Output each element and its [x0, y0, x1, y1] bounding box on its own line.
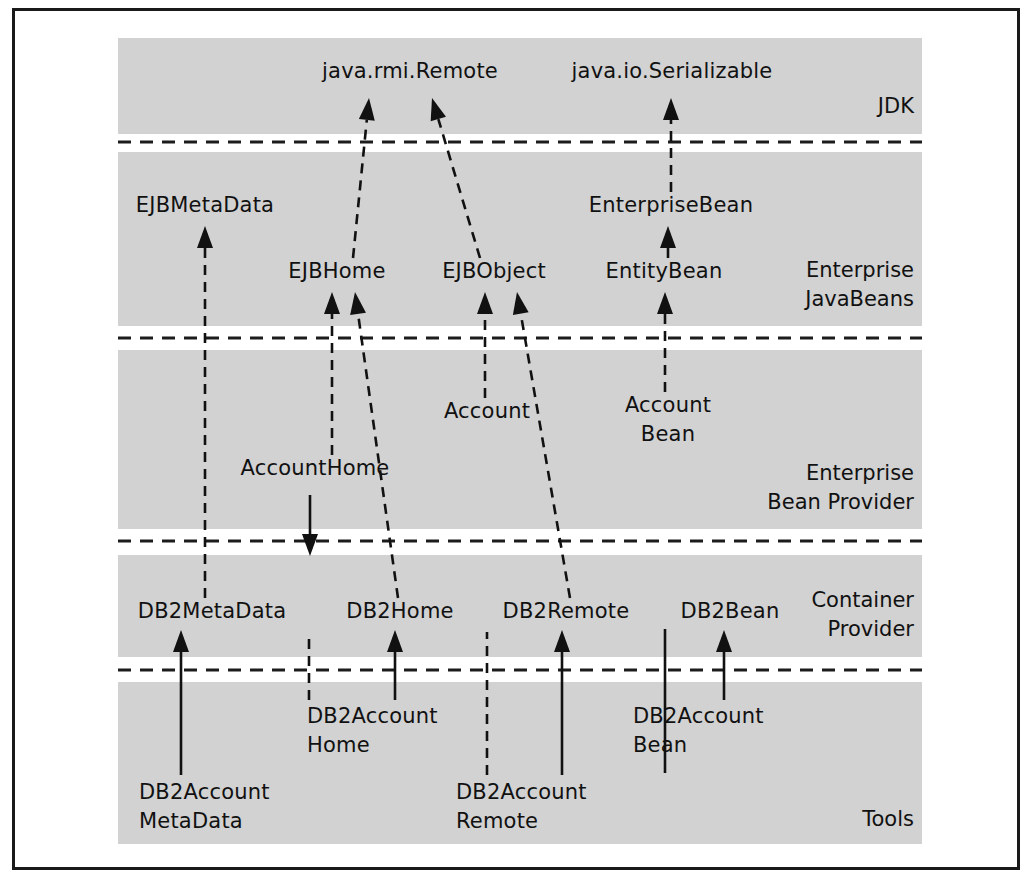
class-node-line: DB2Account	[633, 704, 764, 728]
class-node-ejb_metadata[interactable]: EJBMetaData	[136, 193, 274, 217]
class-node-line: DB2Account	[139, 780, 270, 804]
class-node-line: Account	[444, 399, 530, 423]
class-node-line: Bean	[633, 733, 687, 757]
class-node-account[interactable]: Account	[444, 399, 530, 423]
class-node-ejb_home[interactable]: EJBHome	[288, 259, 385, 283]
class-node-line: AccountHome	[240, 456, 389, 480]
diagram-page: java.rmi.Remotejava.io.SerializableEJBMe…	[0, 0, 1032, 879]
class-node-entity_bean[interactable]: EntityBean	[606, 259, 723, 283]
class-node-java_io_serializable[interactable]: java.io.Serializable	[571, 59, 773, 83]
class-node-db2_metadata[interactable]: DB2MetaData	[138, 599, 286, 623]
class-node-line: EntityBean	[606, 259, 723, 283]
diagram-canvas: java.rmi.Remotejava.io.SerializableEJBMe…	[0, 0, 1032, 879]
band-label-line: Enterprise	[806, 258, 914, 282]
class-node-line: DB2MetaData	[138, 599, 286, 623]
class-node-line: EJBMetaData	[136, 193, 274, 217]
class-node-java_rmi_remote[interactable]: java.rmi.Remote	[321, 59, 498, 83]
class-node-line: Account	[625, 393, 711, 417]
band-label-jdk: JDK	[876, 94, 915, 118]
arrowhead	[302, 534, 318, 556]
class-node-db2_home[interactable]: DB2Home	[346, 599, 453, 623]
band-label-line: Tools	[861, 807, 914, 831]
band-label-line: Provider	[828, 617, 915, 641]
class-node-line: java.rmi.Remote	[321, 59, 498, 83]
class-node-line: java.io.Serializable	[571, 59, 773, 83]
band-label-line: Enterprise	[806, 461, 914, 485]
band-label-line: JavaBeans	[803, 287, 914, 311]
class-node-line: Remote	[456, 809, 538, 833]
band-label-tools: Tools	[861, 807, 914, 831]
band-label-line: Container	[811, 588, 914, 612]
class-node-line: Bean	[641, 422, 695, 446]
class-node-line: DB2Account	[307, 704, 438, 728]
class-node-line: EJBObject	[442, 259, 546, 283]
class-node-line: DB2Home	[346, 599, 453, 623]
class-node-line: DB2Remote	[503, 599, 630, 623]
class-node-enterprise_bean[interactable]: EnterpriseBean	[589, 193, 753, 217]
bands-layer	[118, 38, 922, 844]
class-node-line: Home	[307, 733, 370, 757]
class-node-db2_bean[interactable]: DB2Bean	[681, 599, 780, 623]
band-label-line: Bean Provider	[767, 490, 914, 514]
class-node-account_home[interactable]: AccountHome	[240, 456, 389, 480]
class-node-line: EnterpriseBean	[589, 193, 753, 217]
class-node-ejb_object[interactable]: EJBObject	[442, 259, 546, 283]
band-jdk	[118, 38, 922, 134]
class-node-line: MetaData	[139, 809, 243, 833]
class-node-db2_remote[interactable]: DB2Remote	[503, 599, 630, 623]
class-node-line: EJBHome	[288, 259, 385, 283]
band-label-line: JDK	[876, 94, 915, 118]
class-node-line: DB2Account	[456, 780, 587, 804]
class-node-line: DB2Bean	[681, 599, 780, 623]
